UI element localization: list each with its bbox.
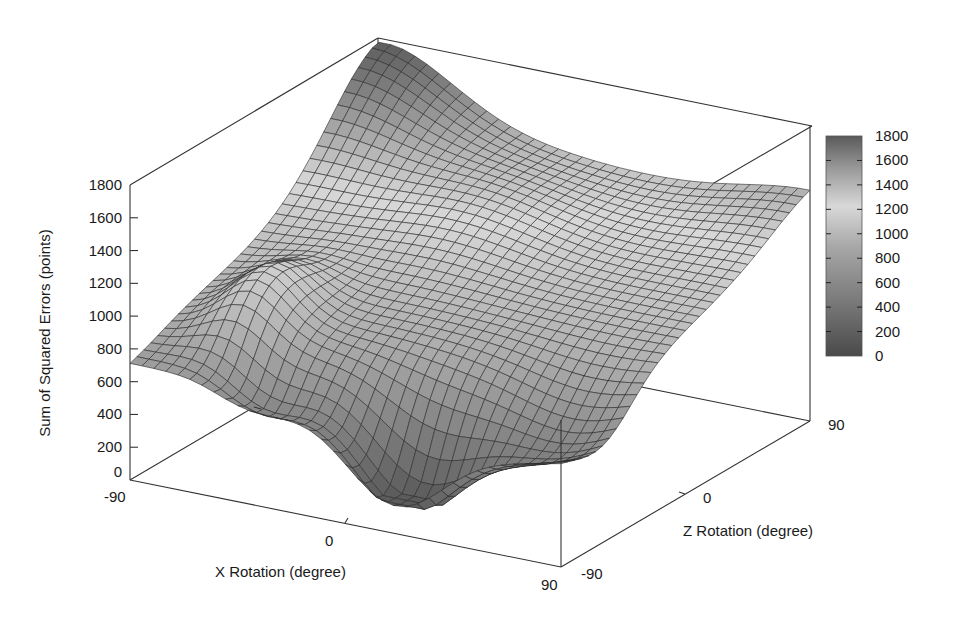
colorbar-tick-label: 400 bbox=[875, 298, 900, 315]
x-tick-0 bbox=[345, 518, 348, 523]
y-axis-title: Z Rotation (degree) bbox=[683, 522, 813, 539]
z-axis-ticks: 020040060080010001200140016001800 bbox=[89, 176, 138, 480]
colorbar-tick-label: 1800 bbox=[875, 127, 908, 144]
z-tick-label: 1400 bbox=[89, 242, 122, 259]
x-axis-line bbox=[130, 480, 561, 567]
colorbar-tick-label: 600 bbox=[875, 274, 900, 291]
x-axis-title: X Rotation (degree) bbox=[215, 563, 346, 580]
y-tick-label-mid: 0 bbox=[703, 489, 711, 506]
colorbar bbox=[826, 136, 862, 356]
z-tick-label: 400 bbox=[97, 405, 122, 422]
y-tick-label-min: -90 bbox=[581, 565, 603, 582]
colorbar-tick-label: 1000 bbox=[875, 225, 908, 242]
surface-chart: 020040060080010001200140016001800 Sum of… bbox=[0, 0, 953, 618]
x-tick-label-max: 90 bbox=[541, 576, 558, 593]
z-tick-label: 800 bbox=[97, 340, 122, 357]
x-tick-label-mid: 0 bbox=[325, 532, 333, 549]
z-axis-title: Sum of Squared Errors (points) bbox=[36, 229, 53, 437]
y-tick-0 bbox=[679, 492, 685, 494]
z-tick-label: 1200 bbox=[89, 274, 122, 291]
colorbar-tick-label: 200 bbox=[875, 323, 900, 340]
z-tick-label: 200 bbox=[97, 438, 122, 455]
colorbar-tick-label: 1600 bbox=[875, 151, 908, 168]
z-tick-label: 1800 bbox=[89, 176, 122, 193]
z-tick-label: 600 bbox=[97, 373, 122, 390]
z-tick-label: 0 bbox=[114, 463, 122, 480]
z-tick-label: 1600 bbox=[89, 209, 122, 226]
error-surface-mesh bbox=[130, 42, 810, 509]
x-tick-label-min: -90 bbox=[104, 488, 126, 505]
colorbar-tick-label: 1200 bbox=[875, 200, 908, 217]
colorbar-tick-label: 0 bbox=[875, 347, 883, 364]
colorbar-tick-label: 1400 bbox=[875, 176, 908, 193]
y-tick-label-max: 90 bbox=[828, 416, 845, 433]
colorbar-tick-label: 800 bbox=[875, 249, 900, 266]
z-tick-label: 1000 bbox=[89, 307, 122, 324]
